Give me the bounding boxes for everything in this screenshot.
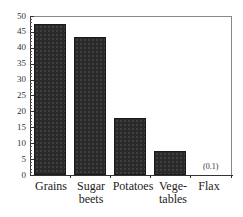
bar-chart: 0 5 10 15 20 25 30 35 40 45 50 (0.1) Gra…	[0, 0, 243, 217]
x-label-line: tables	[159, 192, 187, 206]
y-tick-label: 50	[0, 12, 26, 21]
y-minor-tick	[30, 121, 32, 122]
y-minor-tick	[30, 140, 32, 141]
flax-value-annotation: (0.1)	[203, 162, 218, 171]
y-minor-tick	[30, 169, 32, 170]
y-tick-label: 20	[0, 107, 26, 116]
y-minor-tick	[30, 134, 32, 135]
y-minor-tick	[30, 156, 32, 157]
x-label-potatoes: Potatoes	[112, 180, 154, 193]
y-tick-label: 45	[0, 27, 26, 36]
y-minor-tick	[30, 172, 32, 173]
y-tick-label: 10	[0, 139, 26, 148]
y-tick-label: 5	[0, 155, 26, 164]
y-minor-tick	[30, 35, 32, 36]
y-tick-label: 0	[0, 171, 26, 180]
y-minor-tick	[30, 83, 32, 84]
y-tick-label: 15	[0, 123, 26, 132]
y-minor-tick	[30, 41, 32, 42]
x-label-sugar-beets: Sugarbeets	[70, 180, 112, 206]
y-tick-label: 25	[0, 91, 26, 100]
y-minor-tick	[30, 150, 32, 151]
x-label-line: Flax	[198, 179, 219, 193]
y-minor-tick	[30, 162, 32, 163]
y-minor-tick	[30, 165, 32, 166]
y-tick-label: 30	[0, 75, 26, 84]
y-minor-tick	[30, 38, 32, 39]
x-tick	[70, 175, 71, 178]
y-minor-tick	[30, 45, 32, 46]
y-minor-tick	[30, 124, 32, 125]
y-minor-tick	[30, 102, 32, 103]
y-minor-tick	[30, 22, 32, 23]
y-minor-tick	[30, 86, 32, 87]
x-label-line: Grains	[35, 179, 67, 193]
y-minor-tick	[30, 76, 32, 77]
x-tick	[190, 175, 191, 178]
y-minor-tick	[30, 99, 32, 100]
y-minor-tick	[30, 51, 32, 52]
y-minor-tick	[30, 118, 32, 119]
y-minor-tick	[30, 29, 32, 30]
bar-potatoes	[114, 118, 146, 175]
x-label-line: Potatoes	[113, 179, 154, 193]
y-minor-tick	[30, 105, 32, 106]
y-tick-label: 40	[0, 43, 26, 52]
x-tick	[110, 175, 111, 178]
x-label-line: Vege-	[159, 179, 187, 193]
x-axis	[30, 175, 233, 176]
x-label-flax: Flax	[188, 180, 230, 193]
bar-grains	[34, 24, 66, 175]
y-minor-tick	[30, 26, 32, 27]
bar-sugar-beets	[74, 37, 106, 175]
y-minor-tick	[30, 70, 32, 71]
y-tick-label: 35	[0, 59, 26, 68]
x-label-grains: Grains	[30, 180, 72, 193]
y-minor-tick	[30, 115, 32, 116]
x-label-line: beets	[79, 192, 104, 206]
y-minor-tick	[30, 108, 32, 109]
y-minor-tick	[30, 153, 32, 154]
y-minor-tick	[30, 89, 32, 90]
y-minor-tick	[30, 57, 32, 58]
bar-vegetables	[154, 151, 186, 175]
y-major-tick	[30, 16, 34, 17]
y-minor-tick	[30, 61, 32, 62]
y-minor-tick	[30, 67, 32, 68]
y-minor-tick	[30, 137, 32, 138]
x-tick	[231, 175, 232, 178]
x-tick	[150, 175, 151, 178]
y-major-tick	[30, 175, 34, 176]
y-minor-tick	[30, 92, 32, 93]
y-minor-tick	[30, 54, 32, 55]
x-label-line: Sugar	[77, 179, 105, 193]
y-minor-tick	[30, 130, 32, 131]
y-minor-tick	[30, 19, 32, 20]
y-minor-tick	[30, 146, 32, 147]
y-minor-tick	[30, 73, 32, 74]
